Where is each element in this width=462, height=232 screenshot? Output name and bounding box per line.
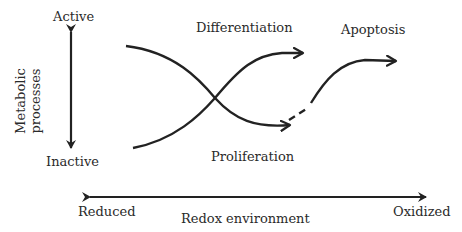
metabolic-label-line2: processes — [28, 65, 43, 137]
apoptosis-curve — [311, 60, 396, 103]
cropped-caption-fragment — [0, 0, 462, 3]
reduced-label: Reduced — [78, 205, 135, 218]
apoptosis-label: Apoptosis — [341, 23, 405, 36]
proliferation-label: Proliferation — [211, 150, 294, 163]
active-label: Active — [53, 10, 94, 23]
metabolic-label-line1: Metabolic — [13, 65, 28, 137]
redox-environment-label: Redox environment — [181, 212, 310, 225]
apoptosis-transition-dashed — [289, 108, 308, 120]
proliferation-curve — [126, 46, 290, 126]
metabolic-processes-label: Metabolic processes — [13, 65, 43, 137]
oxidized-label: Oxidized — [393, 205, 451, 218]
differentiation-label: Differentiation — [196, 21, 293, 34]
inactive-label: Inactive — [46, 155, 99, 168]
